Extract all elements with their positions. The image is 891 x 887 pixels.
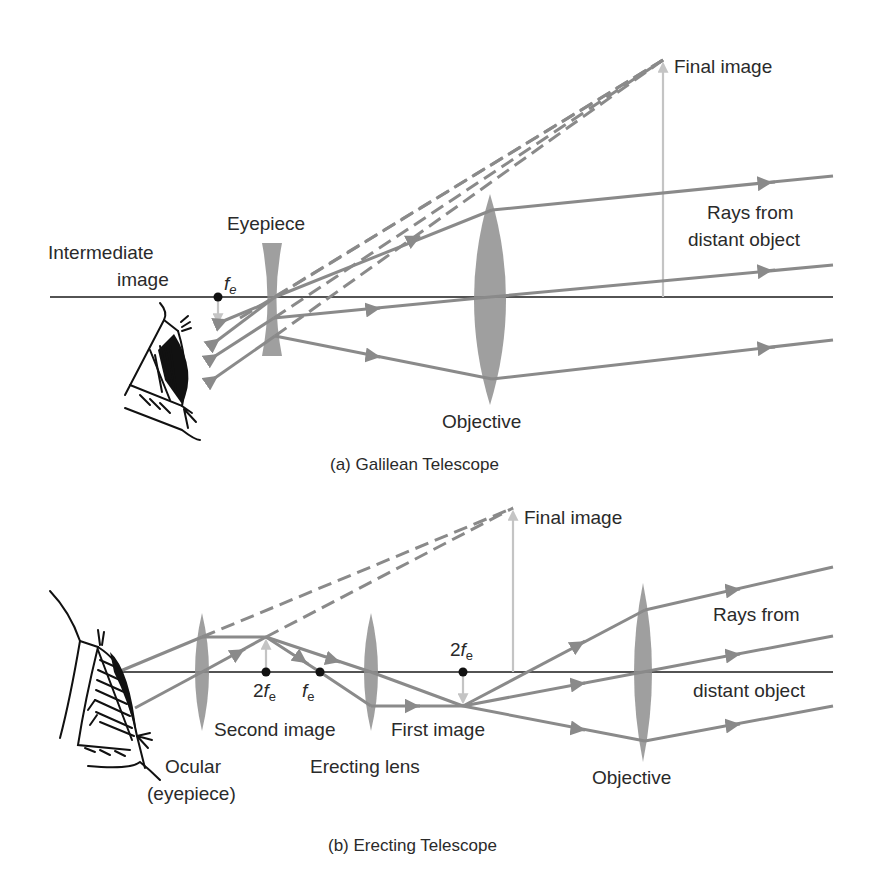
virtual-rays-b <box>202 508 513 637</box>
label-second-image: Second image <box>214 719 335 740</box>
label-intermediate: Intermediate <box>48 242 154 263</box>
label-image: image <box>117 269 169 290</box>
label-distant-object-a: distant object <box>688 229 801 250</box>
focal-point-fe <box>316 668 325 677</box>
label-rays-from-a: Rays from <box>707 202 794 223</box>
focal-point-dot <box>214 293 223 302</box>
label-focal-fe-a: fe <box>224 273 237 297</box>
label-first-image: First image <box>391 719 485 740</box>
converging-rays <box>274 210 492 379</box>
focal-point-2fe-right <box>459 668 468 677</box>
label-final-image-b: Final image <box>524 507 622 528</box>
label-final-image-a: Final image <box>674 56 772 77</box>
panel-erecting: Final image Rays from distant object 2fe… <box>50 507 833 855</box>
label-objective-b: Objective <box>592 767 671 788</box>
label-objective-a: Objective <box>442 411 521 432</box>
caption-erecting: (b) Erecting Telescope <box>328 836 497 855</box>
eye-drawing-b <box>50 591 160 780</box>
label-ocular: Ocular <box>165 756 222 777</box>
label-fe: fe <box>302 680 315 704</box>
eye-drawing <box>125 303 200 440</box>
focal-point-2fe-left <box>262 668 271 677</box>
label-eyepiece-b: (eyepiece) <box>147 783 236 804</box>
objective-to-first-image-rays <box>463 610 645 741</box>
label-2fe-right: 2fe <box>450 639 473 663</box>
panel-galilean: Final image Rays from distant object Eye… <box>48 56 833 474</box>
label-2fe-left: 2fe <box>253 680 276 704</box>
label-distant-object-b: distant object <box>693 680 806 701</box>
telescope-diagram: Final image Rays from distant object Eye… <box>0 0 891 887</box>
incoming-rays-b <box>643 567 833 741</box>
caption-galilean: (a) Galilean Telescope <box>330 455 499 474</box>
label-eyepiece: Eyepiece <box>227 213 305 234</box>
label-rays-from-b: Rays from <box>713 604 800 625</box>
label-erecting-lens: Erecting lens <box>310 756 420 777</box>
